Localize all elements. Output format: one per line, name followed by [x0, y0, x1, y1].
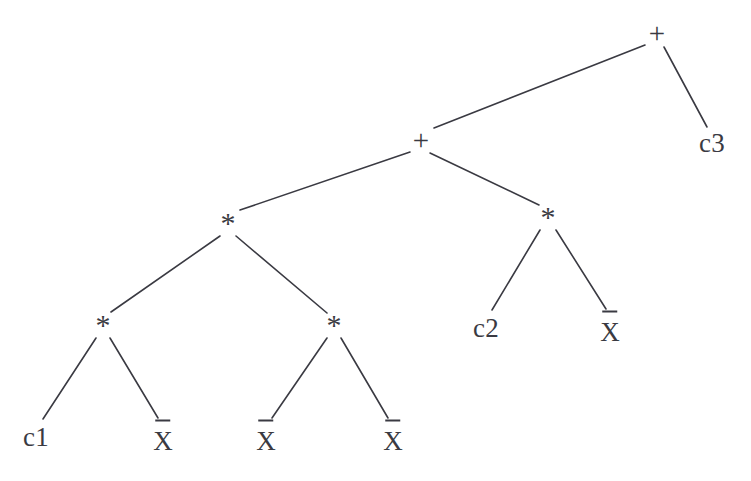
overbar-icon: [156, 420, 171, 422]
tree-edge: [111, 236, 220, 312]
tree-edges-layer: [0, 0, 751, 481]
tree-node-leaf: c1: [23, 424, 49, 451]
tree-node-label: X: [256, 428, 276, 455]
overbar-icon: [603, 311, 618, 313]
tree-node-operator-times: *: [327, 310, 342, 340]
tree-node-operator-times: *: [541, 202, 556, 232]
tree-node-label: X: [153, 428, 173, 455]
tree-edge: [272, 338, 327, 418]
overbar-icon: [386, 420, 401, 422]
tree-edge: [236, 236, 327, 313]
tree-node-operator-times: *: [96, 310, 111, 340]
expression-tree-diagram: +c3+****c2Xc1XXX: [0, 0, 751, 481]
tree-edge: [430, 153, 539, 205]
tree-edge: [341, 338, 388, 418]
tree-node-label: X: [383, 428, 403, 455]
overbar-icon: [259, 420, 274, 422]
tree-node-x-bar: X: [256, 420, 276, 455]
tree-node-x-bar: X: [153, 420, 173, 455]
tree-edge: [664, 47, 707, 127]
tree-edge: [43, 338, 96, 419]
tree-node-leaf: c3: [699, 130, 725, 157]
tree-edge: [434, 45, 645, 128]
tree-edge: [110, 338, 158, 418]
tree-node-operator-plus: +: [649, 19, 665, 48]
tree-node-x-bar: X: [600, 311, 620, 346]
tree-edge: [240, 152, 410, 210]
tree-node-leaf: c2: [473, 315, 499, 342]
tree-edge: [556, 230, 606, 309]
tree-node-operator-plus: +: [413, 126, 429, 155]
tree-node-label: X: [600, 319, 620, 346]
tree-node-x-bar: X: [383, 420, 403, 455]
tree-node-operator-times: *: [221, 208, 236, 238]
tree-edge: [492, 230, 540, 310]
